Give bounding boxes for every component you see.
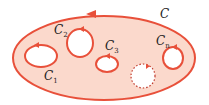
inner-curve-c2 [67, 29, 93, 57]
dotted-hole [131, 64, 155, 88]
label-c: C [160, 7, 169, 21]
inner-curve-cn [163, 47, 183, 69]
multiply-connected-region-diagram: C C1 C2 C3 Cn [0, 0, 209, 105]
inner-curve-c1 [25, 45, 57, 67]
inner-curve-c3 [96, 56, 118, 72]
